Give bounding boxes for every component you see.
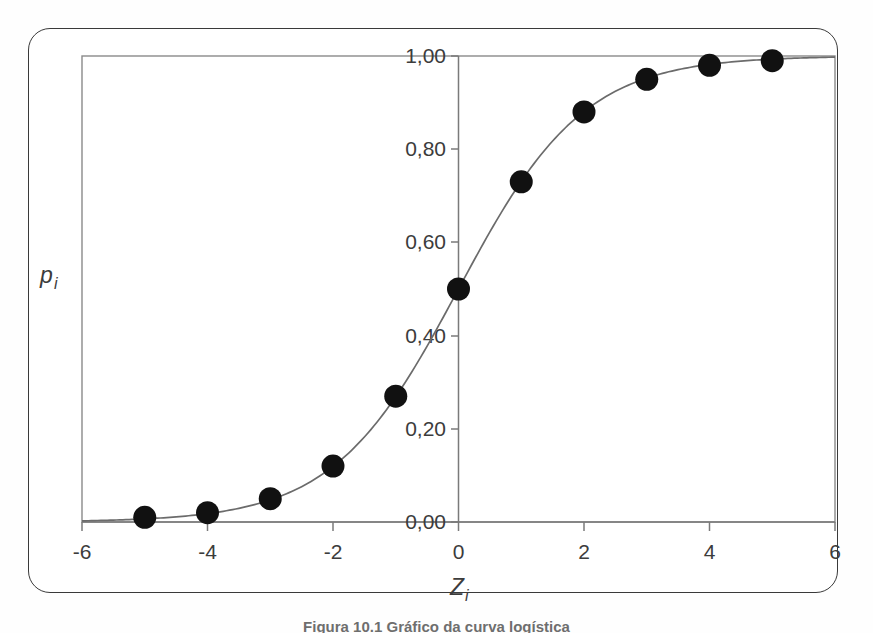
x-axis-title: Z i [449, 574, 469, 604]
y-tick-label-1.00: 1,00 [405, 44, 446, 67]
x-tick-label--2: -2 [324, 540, 343, 563]
y-axis-title-base: p [39, 262, 53, 288]
y-axis-title: p i [39, 262, 58, 292]
figure-caption-strip: Figura 10.1 Gráfico da curva logística [0, 618, 873, 633]
x-tick-label--6: -6 [73, 540, 92, 563]
figure-root: 1,00 0,80 0,60 0,40 0,20 0,00 -6 -4 -2 0… [0, 0, 873, 633]
y-tick-label-0.80: 0,80 [405, 137, 446, 160]
y-tick-label-0.40: 0,40 [405, 324, 446, 347]
x-tick-label-6: 6 [829, 540, 841, 563]
y-axis-tick-labels: 1,00 0,80 0,60 0,40 0,20 0,00 [405, 44, 446, 533]
x-tick-label-0: 0 [453, 540, 465, 563]
x-tick-label--4: -4 [198, 540, 217, 563]
x-axis-ticks [82, 522, 835, 531]
data-point [761, 49, 784, 72]
logistic-curve-chart: 1,00 0,80 0,60 0,40 0,20 0,00 -6 -4 -2 0… [0, 0, 873, 633]
y-axis-title-sub: i [54, 275, 58, 292]
x-axis-title-base: Z [449, 574, 465, 600]
x-tick-label-4: 4 [704, 540, 716, 563]
data-point [322, 455, 345, 478]
x-axis-title-sub: i [465, 587, 469, 604]
data-point [133, 506, 156, 529]
y-tick-label-0.00: 0,00 [405, 510, 446, 533]
x-axis-tick-labels: -6 -4 -2 0 2 4 6 [73, 540, 841, 563]
data-point [698, 54, 721, 77]
data-point [259, 487, 282, 510]
data-point [384, 385, 407, 408]
data-point [447, 278, 470, 301]
x-tick-label-2: 2 [578, 540, 590, 563]
figure-caption: Figura 10.1 Gráfico da curva logística [0, 618, 873, 633]
data-point [196, 501, 219, 524]
data-point [635, 68, 658, 91]
y-tick-label-0.60: 0,60 [405, 230, 446, 253]
data-point [573, 100, 596, 123]
data-point [510, 170, 533, 193]
y-tick-label-0.20: 0,20 [405, 417, 446, 440]
